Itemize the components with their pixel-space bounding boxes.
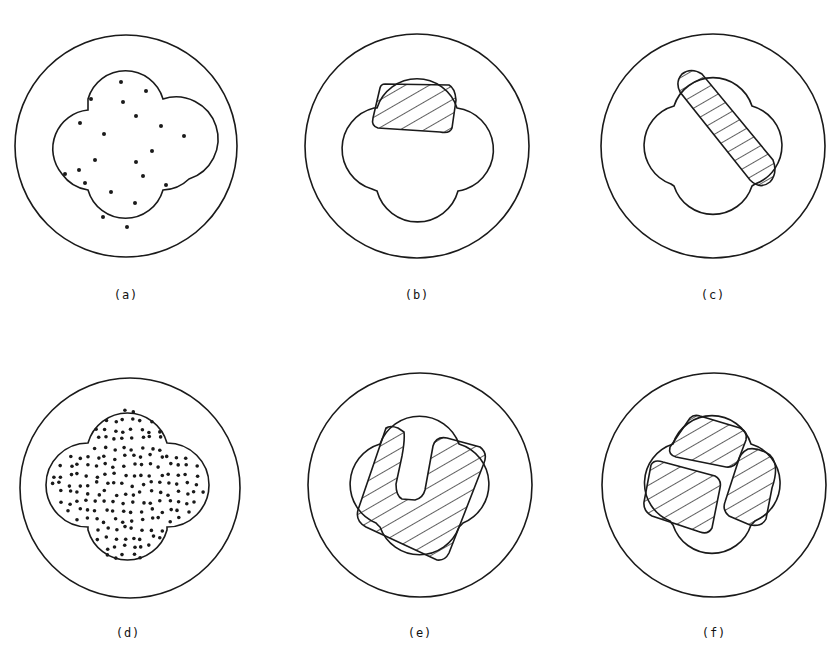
panel-f bbox=[602, 373, 826, 597]
outer-circle bbox=[308, 373, 532, 597]
hatched-bar bbox=[678, 71, 775, 186]
outer-circle bbox=[20, 378, 240, 598]
label-a: (a) bbox=[96, 288, 156, 302]
panel-e bbox=[308, 373, 532, 597]
figure-canvas bbox=[0, 0, 839, 655]
panel-b bbox=[305, 34, 529, 258]
hatched-block-left bbox=[644, 461, 721, 533]
outer-circle bbox=[15, 35, 237, 257]
label-f: (f) bbox=[684, 626, 744, 640]
label-b: (b) bbox=[387, 288, 447, 302]
quatrefoil bbox=[53, 71, 218, 219]
hatched-block bbox=[373, 84, 456, 133]
panel-a bbox=[15, 35, 237, 257]
u-shaped-hatched-block bbox=[357, 427, 485, 561]
panel-c bbox=[601, 34, 825, 258]
dense-dots bbox=[51, 409, 205, 560]
sparse-dots bbox=[63, 80, 186, 229]
outer-circle bbox=[305, 34, 529, 258]
label-e: (e) bbox=[390, 626, 450, 640]
label-c: (c) bbox=[683, 288, 743, 302]
label-d: (d) bbox=[98, 626, 158, 640]
panel-d bbox=[20, 378, 240, 598]
outer-circle bbox=[601, 34, 825, 258]
